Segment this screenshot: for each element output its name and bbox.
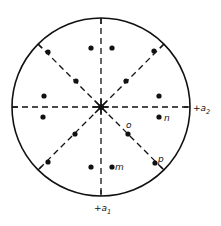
pole xyxy=(88,45,93,50)
pole xyxy=(72,131,77,136)
pole xyxy=(109,45,114,50)
point-label-n: n xyxy=(164,113,170,123)
pole-o xyxy=(125,131,130,136)
pole xyxy=(40,114,45,119)
pole-p xyxy=(152,160,157,165)
axis-label-a2: +a2 xyxy=(193,103,210,116)
pole xyxy=(45,159,50,164)
pole xyxy=(156,93,161,98)
center-pole-dot xyxy=(98,104,104,110)
pole xyxy=(151,48,156,53)
pole xyxy=(41,93,46,98)
pole xyxy=(45,49,50,54)
pole xyxy=(73,78,78,83)
axis-label-a1: +a1 xyxy=(94,203,111,216)
pole-m xyxy=(109,164,114,169)
stereographic-projection: o n p m +a2 +a1 xyxy=(0,0,221,226)
point-label-m: m xyxy=(115,162,124,172)
pole xyxy=(123,78,128,83)
pole xyxy=(88,164,93,169)
pole-n xyxy=(156,114,161,119)
point-label-p: p xyxy=(157,154,164,164)
point-label-o: o xyxy=(126,120,132,130)
